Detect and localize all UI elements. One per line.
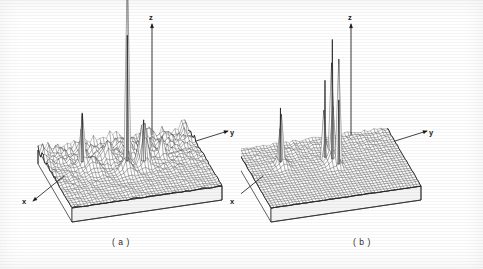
axis-label-z: z bbox=[149, 14, 153, 22]
panel-caption-a: ( a ) bbox=[0, 237, 242, 247]
axis-label-x: x bbox=[230, 198, 234, 206]
axis-label-z: z bbox=[348, 14, 352, 22]
axis-label-y: y bbox=[230, 129, 234, 137]
axis-label-y: y bbox=[429, 129, 433, 137]
panel-a: z y x ( a ) bbox=[0, 0, 242, 269]
surface-plot-b bbox=[241, 0, 483, 240]
figure-canvas: z y x ( a ) z y x ( b ) bbox=[0, 0, 483, 269]
panel-caption-b: ( b ) bbox=[241, 237, 483, 247]
panel-b: z y x ( b ) bbox=[241, 0, 483, 269]
surface-plot-a bbox=[0, 0, 242, 240]
axis-label-x: x bbox=[22, 198, 26, 206]
